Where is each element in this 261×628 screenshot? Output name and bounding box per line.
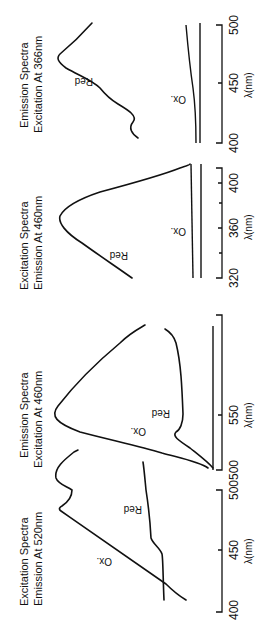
spectra-figure: Excitation Spectra Emission At 520nm Ox.… (0, 0, 261, 628)
ox-curve (56, 450, 186, 600)
red-label: Red (75, 76, 93, 87)
x-axis-label: λ(nm) (243, 538, 254, 564)
panel-excitation-520: Excitation Spectra Emission At 520nm Ox.… (18, 450, 254, 620)
tick-label: 360 (227, 218, 241, 238)
ox-label: Ox. (170, 94, 186, 105)
panel-excitation-460: Excitation Spectra Emission At 460nm Red… (18, 164, 254, 290)
tick-label: 550 (227, 405, 241, 425)
tick-label: 450 (227, 73, 241, 93)
tick-label: 400 (227, 133, 241, 153)
panel-subtitle: Emission At 460nm (32, 196, 44, 290)
panel-title: Excitation Spectra (18, 200, 30, 290)
panel-title: Emission Spectra (18, 372, 30, 458)
red-label: Red (124, 504, 142, 515)
tick-label: 500 (227, 15, 241, 35)
red-curve (165, 329, 213, 468)
panel-title: Emission Spectra (18, 42, 30, 128)
x-axis (216, 168, 222, 278)
x-axis-label: λ(nm) (243, 72, 254, 98)
red-label: Red (110, 250, 128, 261)
tick-label: 400 (227, 173, 241, 193)
x-axis-label: λ(nm) (243, 214, 254, 240)
panel-emission-366: Emission Spectra Excitation At 366nm Red… (18, 15, 254, 153)
tick-label: 320 (227, 268, 241, 288)
x-axis (216, 25, 222, 143)
ox-curve (55, 325, 208, 468)
panel-emission-460: Emission Spectra Excitation At 460nm Ox.… (18, 315, 254, 480)
tick-label: 400 (227, 600, 241, 620)
x-axis-label: λ(nm) (243, 402, 254, 428)
tick-label: 500 (227, 460, 241, 480)
panel-title: Excitation Spectra (18, 516, 30, 606)
ox-curve (186, 25, 196, 143)
ox-label: Ox. (170, 226, 186, 237)
panel-subtitle: Excitation At 366nm (32, 36, 44, 133)
tick-label: 450 (227, 540, 241, 560)
ox-label: Ox. (130, 426, 146, 437)
red-label: Red (152, 408, 170, 419)
ox-curve (191, 164, 193, 278)
panel-subtitle: Emission At 520nm (32, 512, 44, 606)
tick-label: 500 (227, 480, 241, 500)
x-axis (216, 315, 222, 470)
panel-subtitle: Excitation At 460nm (32, 371, 44, 468)
x-axis (216, 490, 222, 612)
spectra-figure-svg: Excitation Spectra Emission At 520nm Ox.… (0, 0, 261, 628)
ox-label: Ox. (96, 556, 112, 567)
red-curve (143, 462, 164, 600)
red-curve (58, 23, 138, 138)
